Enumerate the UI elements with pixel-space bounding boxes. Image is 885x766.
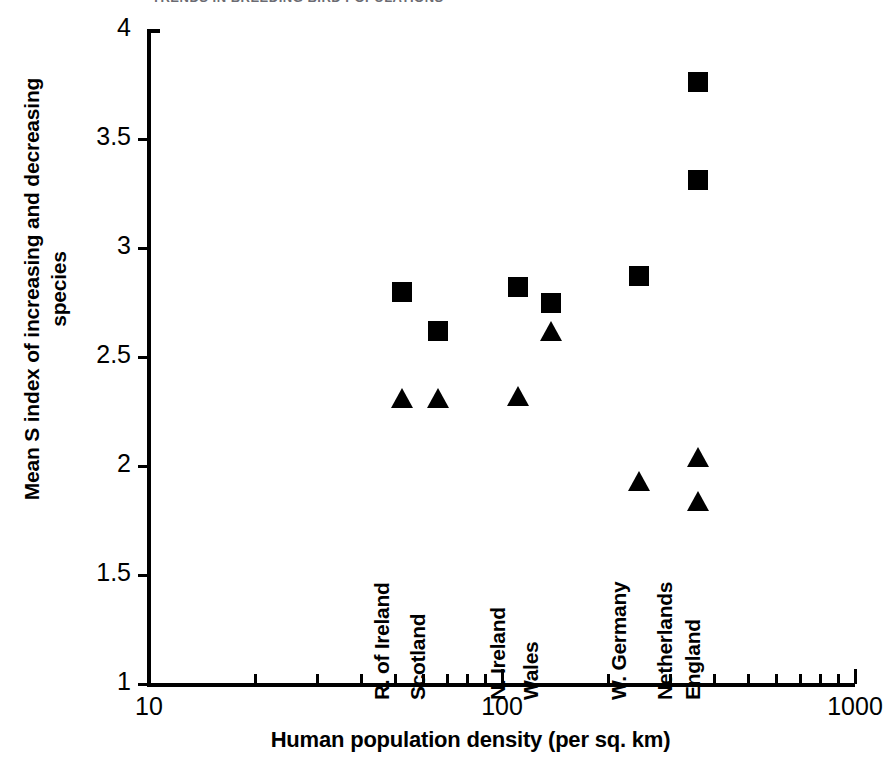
country-label: R. of Ireland [370, 583, 394, 700]
x-tick-minor [394, 674, 397, 684]
y-tick-label: 4 [13, 13, 131, 42]
marker-triangle-decreasing [540, 321, 562, 341]
marker-square-increasing [508, 277, 528, 297]
x-axis-title-label: Human population density (per sq. km) [271, 727, 671, 752]
y-tick-label: 2.5 [13, 340, 131, 369]
header-artifact-text: TRENDS IN BREEDING BIRD POPULATIONS [152, 0, 880, 9]
y-axis-title-line2: species [45, 9, 72, 569]
x-tick-minor [799, 674, 802, 684]
x-tick-label: 1000 [795, 692, 885, 721]
x-tick-minor [254, 674, 257, 684]
y-axis-line [147, 30, 151, 687]
x-axis-title: Human population density (per sq. km) [0, 727, 885, 753]
y-tick-label: 3.5 [13, 122, 131, 151]
x-tick-major [854, 669, 857, 684]
marker-square-increasing [392, 282, 412, 302]
header-artifact-label: TRENDS IN BREEDING BIRD POPULATIONS [152, 0, 880, 2]
y-axis-title-line1: Mean S index of increasing and decreasin… [18, 9, 45, 569]
country-label: Wales [519, 642, 543, 700]
y-tick-label: 2 [13, 449, 131, 478]
y-tick [138, 247, 151, 250]
marker-triangle-decreasing [507, 386, 529, 406]
y-axis-title: Mean S index of increasing and decreasin… [18, 9, 72, 569]
y-tick-label: 3 [13, 231, 131, 260]
x-tick-minor [446, 674, 449, 684]
y-tick-label: 1.5 [13, 558, 131, 587]
x-tick-major [148, 669, 151, 684]
marker-square-increasing [428, 321, 448, 341]
x-tick-minor [360, 674, 363, 684]
x-tick-minor [747, 674, 750, 684]
country-label: England [681, 619, 705, 700]
x-tick-minor [466, 674, 469, 684]
x-tick-minor [819, 674, 822, 684]
country-label: Netherlands [653, 582, 677, 700]
marker-square-increasing [688, 170, 708, 190]
country-label: W. Germany [607, 582, 631, 700]
scatter-chart: TRENDS IN BREEDING BIRD POPULATIONS Mean… [0, 0, 885, 766]
x-tick-minor [713, 674, 716, 684]
x-tick-minor [316, 674, 319, 684]
y-tick [147, 29, 160, 33]
marker-triangle-decreasing [427, 388, 449, 408]
x-tick-label: 10 [89, 692, 209, 721]
marker-square-increasing [688, 72, 708, 92]
marker-triangle-decreasing [628, 471, 650, 491]
marker-triangle-decreasing [391, 388, 413, 408]
x-tick-minor [775, 674, 778, 684]
marker-square-increasing [629, 266, 649, 286]
x-tick-minor [837, 674, 840, 684]
marker-triangle-decreasing [687, 447, 709, 467]
country-label: N. Ireland [486, 607, 510, 700]
y-tick [138, 574, 151, 577]
y-tick [138, 138, 151, 141]
country-label: Scotland [406, 614, 430, 700]
y-tick [138, 465, 151, 468]
marker-triangle-decreasing [687, 491, 709, 511]
marker-square-increasing [541, 293, 561, 313]
y-tick [138, 356, 151, 359]
